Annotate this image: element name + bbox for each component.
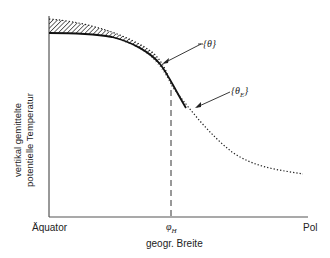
theta-arrowhead-icon: [162, 58, 169, 64]
theta-label: {θ}: [203, 38, 216, 49]
x-tick-phi-h: φH: [166, 221, 177, 235]
theta-e-arrowhead-icon: [195, 102, 201, 108]
x-axis-label: geogr. Breite: [146, 238, 203, 249]
phi-subscript: H: [172, 227, 177, 235]
diagram-canvas: [0, 0, 330, 258]
theta-e-label: {θE}: [231, 85, 248, 99]
x-tick-equator: Äquator: [32, 222, 67, 233]
theta-e-pointer-arrow: [197, 92, 230, 107]
theta-e-curve: [49, 19, 303, 174]
theta-e-label-main: {θ: [231, 85, 240, 96]
theta-pointer-arrow: [164, 44, 201, 63]
y-axis-label-line1: vertikal gemittelte: [12, 60, 24, 220]
x-tick-pole: Pol: [303, 222, 317, 233]
theta-e-label-close: }: [244, 85, 248, 96]
y-axis-label-line2: potentielle Temperatur: [24, 60, 36, 220]
y-axis-label: vertikal gemittelte potentielle Temperat…: [12, 60, 36, 220]
